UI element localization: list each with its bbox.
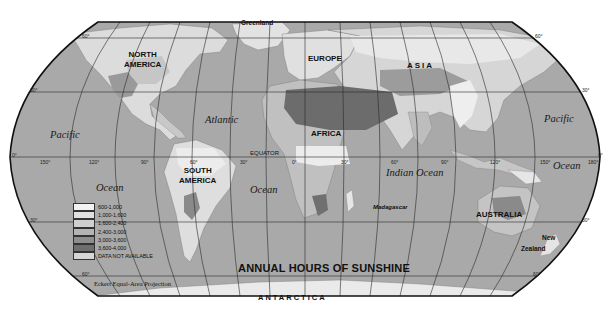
lat-30n-left: 30° <box>30 87 38 93</box>
lon-label: 60° <box>190 159 198 165</box>
label-madagascar: Madagascar <box>373 202 408 212</box>
legend-item: DATA NOT AVAILABLE <box>73 252 173 260</box>
lat-60n-left: 60° <box>82 33 90 39</box>
legend-label: 600-1,000 <box>98 204 122 210</box>
label-europe: EUROPE <box>308 54 342 64</box>
label-antarctica: ANTARCTICA <box>258 293 327 302</box>
label-greenland: Greenland <box>241 18 273 28</box>
label-asia: ASIA <box>407 61 434 71</box>
lon-label: 120° <box>89 159 99 165</box>
label-atlantic-ocean: Ocean <box>250 184 277 195</box>
lat-0-left: 0° <box>12 152 17 158</box>
legend-swatch <box>73 219 95 227</box>
lat-60s-left: 60° <box>82 271 90 277</box>
lon-label: 180° <box>588 159 598 165</box>
label-africa: AFRICA <box>311 129 341 139</box>
lat-30s-right: 30° <box>582 217 590 223</box>
lon-label: 0° <box>292 159 297 165</box>
label-atlantic: Atlantic <box>205 114 238 125</box>
legend-item: 1,600-2,400 <box>73 219 173 227</box>
lon-label: 90° <box>141 159 149 165</box>
label-australia: AUSTRALIA <box>476 210 522 220</box>
label-ocean-west: Ocean <box>96 182 123 193</box>
legend-label: 3,600-4,000 <box>98 245 126 251</box>
legend-swatch <box>73 203 95 211</box>
legend-swatch <box>73 244 95 252</box>
lat-60s-right: 60° <box>533 271 541 277</box>
lon-label: 90° <box>441 159 449 165</box>
lon-label: 30° <box>240 159 248 165</box>
label-america-s: AMERICA <box>179 176 216 186</box>
label-new-zealand-line1: New <box>542 233 555 243</box>
label-south-america: SOUTH AMERICA <box>179 166 216 186</box>
lon-label: 150° <box>540 159 550 165</box>
map-title: ANNUAL HOURS OF SUNSHINE <box>238 262 410 274</box>
legend-label: 1,000-1,600 <box>98 212 126 218</box>
legend-swatch <box>73 252 95 260</box>
legend-swatch <box>73 211 95 219</box>
legend-label: 2,400-3,000 <box>98 229 126 235</box>
lon-label: 120° <box>490 159 500 165</box>
label-america: AMERICA <box>124 60 161 70</box>
legend-label: DATA NOT AVAILABLE <box>98 253 153 259</box>
projection-label: Eckert Equal-Area Projection <box>94 280 171 287</box>
label-pacific-east: Pacific <box>544 113 574 124</box>
legend-label: 3,000-3,600 <box>98 237 126 243</box>
legend-swatch <box>73 236 95 244</box>
lon-label: 30° <box>341 159 349 165</box>
label-indian-ocean: Indian Ocean <box>386 167 443 178</box>
lat-0-right: 0° <box>598 152 603 158</box>
label-pacific-west: Pacific <box>50 129 80 140</box>
label-north-america: NORTH AMERICA <box>124 50 161 70</box>
lat-30n-right: 30° <box>582 87 590 93</box>
lat-60n-right: 60° <box>535 33 543 39</box>
legend-label: 1,600-2,400 <box>98 220 126 226</box>
legend-item: 3,600-4,000 <box>73 244 173 252</box>
legend-item: 600-1,000 <box>73 203 173 211</box>
legend-item: 3,000-3,600 <box>73 236 173 244</box>
lon-label: 60° <box>391 159 399 165</box>
label-equator: EQUATOR <box>250 150 279 156</box>
label-north: NORTH <box>124 50 161 60</box>
legend-item: 1,000-1,600 <box>73 211 173 219</box>
label-ocean-east: Ocean <box>553 160 580 171</box>
legend-swatch <box>73 228 95 236</box>
label-new-zealand-line2: Zealand <box>521 244 546 254</box>
lat-30s-left: 30° <box>30 217 38 223</box>
lon-label: 150° <box>40 159 50 165</box>
legend-item: 2,400-3,000 <box>73 228 173 236</box>
legend: 600-1,000 1,000-1,600 1,600-2,400 2,400-… <box>73 203 173 260</box>
label-south: SOUTH <box>179 166 216 176</box>
